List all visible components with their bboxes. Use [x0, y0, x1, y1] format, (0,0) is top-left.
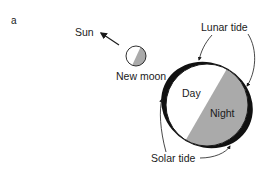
night-label: Night: [210, 107, 235, 119]
solar-tide-label: Solar tide: [151, 152, 196, 164]
day-label: Day: [182, 87, 201, 99]
panel-label: a: [11, 15, 17, 26]
sun-direction-arrow: [101, 33, 119, 45]
lunar-tide-arrow-1: [199, 35, 212, 60]
lunar-tide-arrow-2: [247, 34, 255, 86]
new-moon-icon: [126, 44, 150, 70]
tide-diagram: a Sun New moon Day Night Lunar tide Sola…: [0, 0, 265, 171]
lunar-tide-label: Lunar tide: [201, 21, 248, 33]
sun-label: Sun: [75, 26, 94, 38]
new-moon-label: New moon: [116, 70, 166, 82]
earth-icon: [145, 45, 265, 165]
